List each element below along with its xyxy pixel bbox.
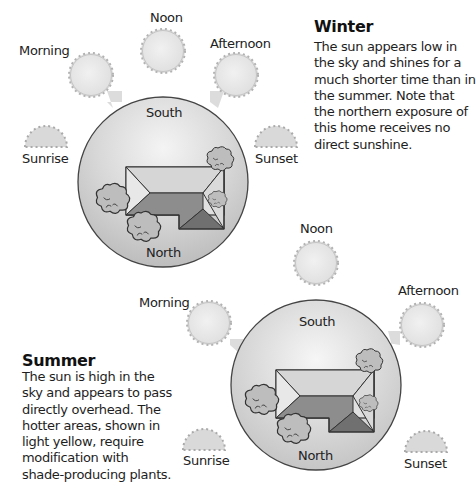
- winter-north-label: North: [146, 245, 181, 260]
- summer-description: The sun is high in the sky and appears t…: [22, 369, 174, 483]
- sun-morning-icon: [69, 53, 113, 97]
- sun-sunrise-icon: [25, 126, 67, 147]
- summer-afternoon-label: Afternoon: [398, 283, 459, 298]
- sun-noon-icon: [141, 29, 185, 73]
- summer-north-label: North: [298, 448, 333, 463]
- sun-morning-icon: [187, 301, 231, 345]
- summer-south-label: South: [299, 314, 335, 329]
- winter-sunrise-label: Sunrise: [22, 151, 68, 166]
- arrow-icon: [107, 91, 122, 108]
- winter-sunset-label: Sunset: [255, 151, 298, 166]
- summer-sunset-label: Sunset: [404, 456, 447, 471]
- winter-afternoon-label: Afternoon: [210, 36, 271, 51]
- winter-title: Winter: [314, 17, 373, 36]
- sun-sunset-icon: [255, 126, 297, 147]
- summer-morning-label: Morning: [139, 295, 190, 310]
- sun-afternoon-icon: [400, 303, 444, 347]
- sun-sunset-icon: [405, 431, 447, 452]
- summer-title: Summer: [22, 351, 95, 370]
- sun-sunrise-icon: [183, 429, 225, 450]
- arrow-icon: [210, 91, 224, 108]
- winter-noon-label: Noon: [150, 10, 183, 25]
- winter-south-label: South: [146, 105, 182, 120]
- sun-afternoon-icon: [214, 53, 258, 97]
- summer-sunrise-label: Sunrise: [183, 453, 229, 468]
- summer-diagram: [183, 241, 447, 470]
- winter-morning-label: Morning: [19, 43, 70, 58]
- winter-diagram: [25, 29, 297, 267]
- summer-noon-label: Noon: [300, 221, 333, 236]
- sun-noon-icon: [294, 241, 338, 285]
- winter-description: The sun appears low in the sky and shine…: [314, 39, 476, 153]
